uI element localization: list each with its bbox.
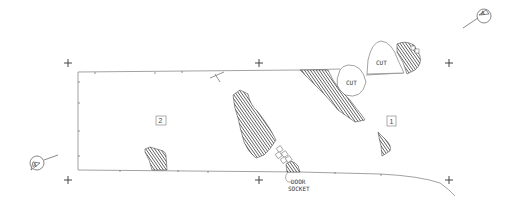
hatched-feature-small-left [145, 147, 167, 170]
cut-features [337, 41, 404, 96]
grid-cross-icon [255, 59, 263, 67]
grid-cross-icon [64, 59, 72, 67]
cut-label: CUT [346, 79, 357, 86]
svg-text:2: 2 [159, 117, 163, 124]
area-label-2: 2 [156, 116, 166, 125]
area-label-1: 1 [387, 116, 396, 126]
site-plan-drawing: CUT CUT DOOR SOCKET 2 1 A [0, 0, 518, 220]
section-marker-top-right: A [463, 9, 491, 28]
grid-cross-icon [64, 176, 72, 184]
section-marker-bottom-left: A [30, 155, 58, 170]
hatched-feature-large [233, 90, 276, 158]
svg-text:A: A [481, 9, 485, 16]
svg-text:1: 1 [390, 118, 394, 125]
door-socket-label: DOOR [291, 178, 306, 185]
grid-cross-icon [445, 176, 453, 184]
svg-text:A: A [33, 161, 37, 168]
door-socket-label: SOCKET [288, 185, 310, 192]
hatched-feature-right [378, 132, 391, 156]
hatched-feature-door [286, 161, 300, 172]
grid-cross-icon [255, 176, 263, 184]
grid-cross-icon [445, 59, 453, 67]
cut-label: CUT [376, 59, 387, 66]
